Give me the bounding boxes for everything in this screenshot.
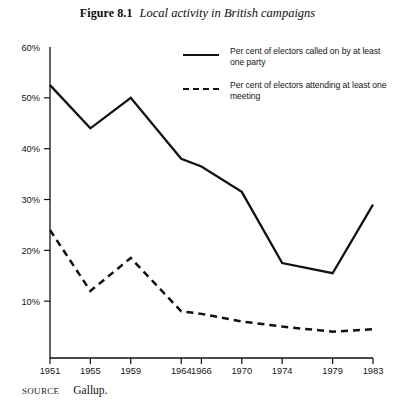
figure-container: Figure 8.1Local activity in British camp…	[0, 0, 395, 409]
y-axis-tick-label: 50%	[21, 93, 40, 103]
y-axis-tick-label: 40%	[21, 144, 40, 154]
y-axis-tick-label: 20%	[21, 246, 40, 256]
y-axis-tick-label: 60%	[21, 43, 40, 53]
y-axis-tick-label: 10%	[21, 297, 40, 307]
series-line-called-on	[50, 85, 373, 273]
x-axis-tick-label: 1983	[363, 366, 384, 376]
source-label: SOURCE	[22, 386, 59, 396]
y-axis-tick-labels: 10%20%30%40%50%60%	[21, 43, 40, 307]
y-axis-tick-label: 30%	[21, 195, 40, 205]
source-row: SOURCEGallup.	[22, 380, 108, 398]
x-axis-tick-label: 1951	[40, 366, 61, 376]
x-axis-ticks	[50, 358, 373, 364]
x-axis-tick-label: 1970	[231, 366, 252, 376]
x-axis-tick-label: 1955	[80, 366, 101, 376]
chart-series	[50, 85, 373, 332]
x-axis-tick-label: 1959	[120, 366, 141, 376]
axis-lines	[50, 47, 373, 358]
y-axis-ticks	[44, 98, 50, 301]
line-chart-plot: 10%20%30%40%50%60% 195119551959196419661…	[0, 0, 395, 409]
chart-axes	[50, 47, 373, 358]
x-axis-tick-label: 1966	[191, 366, 212, 376]
x-axis-tick-label: 1979	[322, 366, 343, 376]
series-line-attending-meeting	[50, 230, 373, 332]
source-value: Gallup.	[73, 384, 107, 396]
x-axis-tick-labels: 195119551959196419661970197419791983	[40, 366, 384, 376]
x-axis-tick-label: 1974	[272, 366, 293, 376]
x-axis-tick-label: 1964	[171, 366, 192, 376]
